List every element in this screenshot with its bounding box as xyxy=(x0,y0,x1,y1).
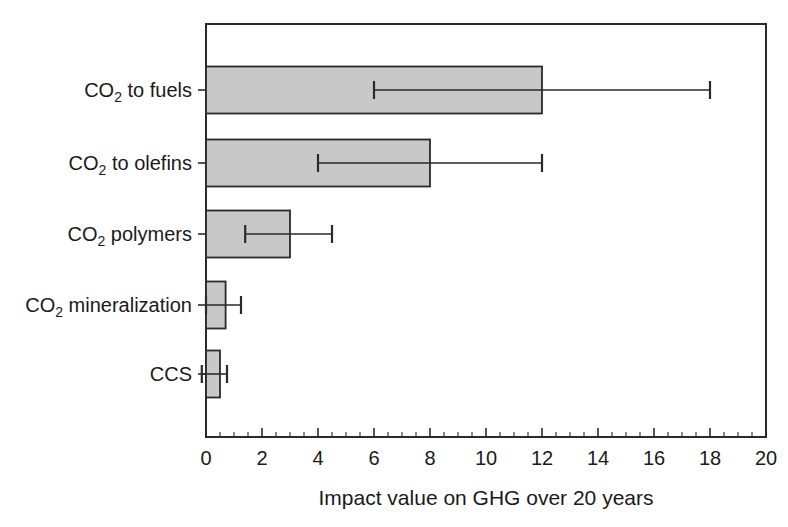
bar-chart-svg: 02468101214161820CO2 to fuelsCO2 to olef… xyxy=(0,0,788,527)
category-label-5: CCS xyxy=(150,363,192,385)
chart-figure: 02468101214161820CO2 to fuelsCO2 to olef… xyxy=(0,0,788,527)
category-label-1: CO2 to fuels xyxy=(84,79,192,105)
x-axis-tick-label: 10 xyxy=(475,447,497,469)
category-label-3: CO2 polymers xyxy=(68,223,193,249)
x-axis-tick-label: 2 xyxy=(256,447,267,469)
x-axis-tick-label: 20 xyxy=(755,447,777,469)
x-axis-tick-label: 12 xyxy=(531,447,553,469)
x-axis-title: Impact value on GHG over 20 years xyxy=(319,486,654,509)
category-label-4: CO2 mineralization xyxy=(25,294,192,320)
x-axis-tick-label: 0 xyxy=(200,447,211,469)
x-axis-tick-label: 4 xyxy=(312,447,323,469)
x-axis-tick-label: 14 xyxy=(587,447,609,469)
x-axis-tick-label: 8 xyxy=(424,447,435,469)
x-axis-tick-label: 18 xyxy=(699,447,721,469)
x-axis-tick-label: 16 xyxy=(643,447,665,469)
x-axis-tick-label: 6 xyxy=(368,447,379,469)
category-label-2: CO2 to olefins xyxy=(69,152,192,178)
